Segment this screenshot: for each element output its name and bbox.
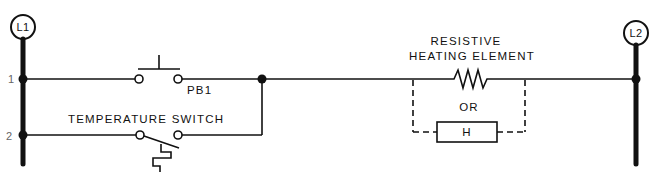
pb1-label: PB1 <box>187 84 212 96</box>
rung-1: PB1 <box>19 55 451 96</box>
load-label-line1: RESISTIVE <box>431 35 502 47</box>
load-label-line2: HEATING ELEMENT <box>409 50 535 62</box>
pushbutton-pb1-symbol <box>135 55 182 83</box>
resistor-icon <box>450 70 492 88</box>
l2-label: L2 <box>629 27 642 39</box>
rung-number-2: 2 <box>6 130 12 142</box>
temperature-switch-symbol <box>136 131 182 172</box>
temperature-switch-label: TEMPERATURE SWITCH <box>68 113 224 125</box>
right-rail: L2 <box>624 21 648 164</box>
ladder-diagram: L1 L2 1 2 PB1 TEMPERATURE SWITCH <box>0 0 659 179</box>
heater-box-label: H <box>462 126 472 138</box>
junction-dot <box>632 75 641 84</box>
or-label: OR <box>459 101 479 113</box>
l1-label: L1 <box>16 21 29 33</box>
rung-number-1: 1 <box>8 73 14 85</box>
heating-element-load: RESISTIVE HEATING ELEMENT OR H <box>409 35 640 142</box>
left-rail: L1 <box>11 15 35 164</box>
rung-2: TEMPERATURE SWITCH <box>19 79 263 172</box>
